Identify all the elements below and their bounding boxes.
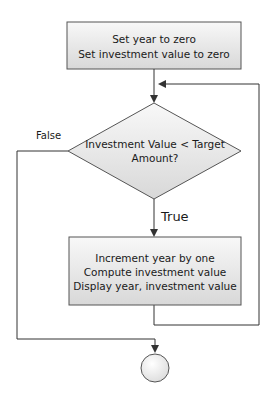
decision-line-1: Investment Value < Target [85,138,225,150]
false-label: False [36,130,61,141]
true-label: True [160,209,189,224]
loop-line-2: Compute investment value [84,266,227,278]
decision-diamond: Investment Value < Target Amount? [68,103,241,199]
end-node-circle [141,354,169,382]
decision-line-2: Amount? [132,152,179,164]
flowchart-canvas: Set year to zero Set investment value to… [0,0,273,400]
loop-line-3: Display year, investment value [73,280,236,292]
init-process-box: Set year to zero Set investment value to… [67,22,241,69]
init-line-2: Set investment value to zero [78,48,230,60]
init-line-1: Set year to zero [112,33,196,45]
loop-process-box: Increment year by one Compute investment… [69,237,241,305]
loop-line-1: Increment year by one [95,252,214,264]
